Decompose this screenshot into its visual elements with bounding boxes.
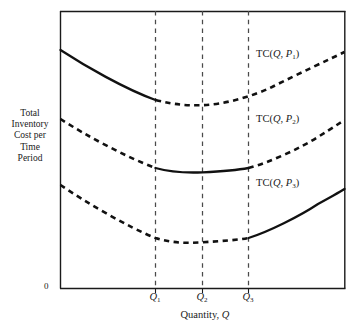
x-tick-label-q3-base: Q xyxy=(242,291,250,302)
curve-tc-p1-dashed xyxy=(156,52,345,105)
curve-label-tc-p2-prefix: TC( xyxy=(256,113,273,124)
curve-label-tc-p3-sub: 3 xyxy=(292,182,296,190)
curve-label-tc-p3-prefix: TC( xyxy=(256,177,273,188)
x-tick-label-q1: Q1 xyxy=(140,291,170,302)
x-axis-title-text: Quantity, Q xyxy=(181,309,230,320)
x-tick-label-q2-sub: 2 xyxy=(204,296,208,304)
curve-tc-p1-solid xyxy=(61,50,156,100)
curve-label-tc-p3: TC(Q, P3) xyxy=(256,177,299,188)
curve-label-tc-p2-sub: 2 xyxy=(292,118,296,126)
y-axis-label-line-3: Cost per xyxy=(2,130,58,141)
y-axis-label: Total Inventory Cost per Time Period xyxy=(2,108,58,164)
curve-label-tc-p2-close: ) xyxy=(296,113,300,124)
y-axis-origin-label: 0 xyxy=(44,281,49,291)
x-tick-label-q1-sub: 1 xyxy=(157,296,161,304)
y-axis-label-line-4: Time xyxy=(2,142,58,153)
y-axis-label-line-2: Inventory xyxy=(2,119,58,130)
chart-container: Total Inventory Cost per Time Period 0 Q… xyxy=(0,0,357,328)
x-tick-label-q2: Q2 xyxy=(187,291,217,302)
x-tick-label-q2-base: Q xyxy=(196,291,204,302)
curve-label-tc-p1-close: ) xyxy=(296,48,300,59)
x-tick-label-q3-sub: 3 xyxy=(250,296,254,304)
x-axis-title-variable: Q xyxy=(222,309,230,320)
x-tick-label-q3: Q3 xyxy=(233,291,263,302)
curve-tc-p2-dashed-right xyxy=(249,120,345,168)
curve-label-tc-p1: TC(Q, P1) xyxy=(256,48,299,59)
x-axis-title: Quantity, Q xyxy=(140,309,270,320)
y-axis-label-line-1: Total xyxy=(2,108,58,119)
reference-lines xyxy=(156,11,249,288)
y-axis-label-line-5: Period xyxy=(2,153,58,164)
x-tick-label-q1-base: Q xyxy=(149,291,157,302)
curve-tc-p2-dashed-left xyxy=(61,119,156,168)
curve-label-tc-p3-close: ) xyxy=(296,177,300,188)
curve-tc-p3-solid xyxy=(249,189,345,238)
curve-label-tc-p1-q: Q xyxy=(273,48,281,59)
curve-label-tc-p3-q: Q xyxy=(273,177,281,188)
curve-label-tc-p2: TC(Q, P2) xyxy=(256,113,299,124)
curve-label-tc-p2-q: Q xyxy=(273,113,281,124)
curve-label-tc-p1-prefix: TC( xyxy=(256,48,273,59)
curve-label-tc-p1-sub: 1 xyxy=(292,53,296,61)
curve-tc-p3-dashed xyxy=(61,185,249,243)
